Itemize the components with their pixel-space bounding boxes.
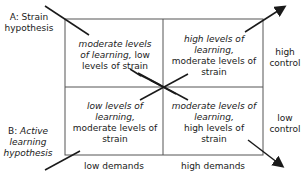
quadrant-top-right: high levels of learning, moderate levels… <box>168 34 260 78</box>
quadrant-bottom-right: moderate levels of learning, high levels… <box>166 101 262 145</box>
active-learning-hypothesis-label: B: Active learning hypothesis <box>0 126 56 159</box>
strain-hypothesis-label: A: Strain hypothesis <box>0 12 58 34</box>
high-demands-label: high demands <box>163 161 263 172</box>
low-control-label: low control <box>266 113 304 135</box>
high-control-label: high control <box>266 47 304 69</box>
low-demands-label: low demands <box>65 161 163 172</box>
quadrant-bottom-left: low levels of learning, moderate levels … <box>68 101 162 145</box>
quadrant-top-left: moderate levels of learning, low levels … <box>70 39 160 72</box>
